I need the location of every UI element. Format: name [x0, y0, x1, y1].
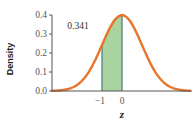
x-axis-ticks: −10: [95, 96, 125, 106]
normal-density-chart: 0.00.10.20.30.4 −10 Density z 0.341: [0, 0, 195, 125]
shaded-area-group: [102, 15, 122, 91]
x-axis-label: z: [119, 108, 125, 120]
shaded-region: [102, 15, 122, 91]
area-annotation: 0.341: [67, 21, 89, 31]
y-axis-label: Density: [5, 43, 15, 76]
x-tick-label: −1: [95, 96, 105, 106]
y-tick-label: 0.2: [35, 48, 47, 58]
y-axis: 0.00.10.20.30.4: [35, 10, 52, 96]
y-tick-label: 0.3: [35, 29, 47, 39]
y-tick-label: 0.0: [35, 86, 47, 96]
y-tick-label: 0.4: [35, 10, 47, 20]
y-tick-label: 0.1: [35, 67, 47, 77]
x-tick-label: 0: [120, 96, 125, 106]
